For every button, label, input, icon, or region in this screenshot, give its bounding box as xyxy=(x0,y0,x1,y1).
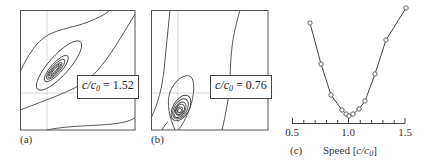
x-axis-title-variable: c/c xyxy=(356,144,369,156)
panel-a-label: (a) xyxy=(20,133,32,145)
panel-c-line-chart xyxy=(292,6,408,124)
annotation-value: = 1.52 xyxy=(103,78,134,92)
x-axis-title: Speed [c/c0] xyxy=(323,144,377,158)
annotation-subscript: 0 xyxy=(96,84,100,93)
panel-a-speed-annotation: c/c0 = 1.52 xyxy=(77,75,139,99)
annotation-value: = 0.76 xyxy=(236,78,267,92)
panel-b-speed-annotation: c/c0 = 0.76 xyxy=(210,75,272,99)
x-axis-title-suffix: ] xyxy=(373,144,377,156)
x-axis-title-prefix: Speed [ xyxy=(323,144,356,156)
annotation-subscript: 0 xyxy=(229,84,233,93)
data-point-markers xyxy=(308,6,408,118)
annotation-variable: c/c xyxy=(215,78,229,92)
panel-c-label: (c) xyxy=(290,144,302,156)
annotation-variable: c/c xyxy=(82,78,96,92)
x-tick-label-0.5: 0.5 xyxy=(285,126,299,138)
panel-a-contour-plot xyxy=(20,10,135,130)
panel-b-contour-plot xyxy=(151,10,268,130)
panel-b-label: (b) xyxy=(151,133,164,145)
x-axis-ticks xyxy=(293,118,406,124)
x-tick-label-1.0: 1.0 xyxy=(341,126,355,138)
data-series-line xyxy=(310,8,406,116)
x-tick-label-1.5: 1.5 xyxy=(398,126,412,138)
